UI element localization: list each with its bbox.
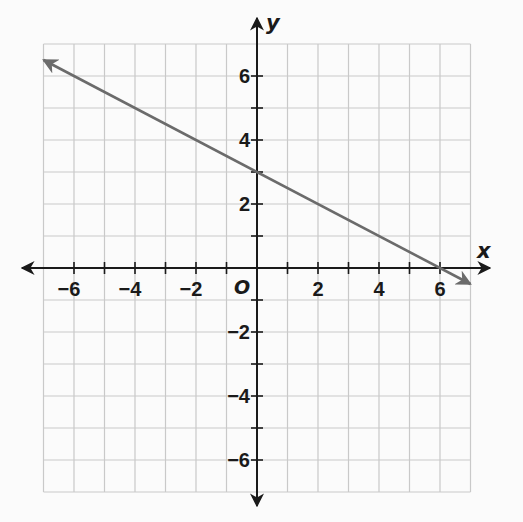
- y-tick-label: 4: [239, 129, 251, 151]
- x-tick-label: −6: [58, 278, 81, 300]
- x-tick-label: −2: [180, 278, 203, 300]
- y-tick-label: −6: [227, 449, 250, 471]
- x-tick-label: 2: [312, 278, 323, 300]
- origin-label: O: [234, 276, 250, 298]
- y-tick-label: 2: [239, 193, 250, 215]
- x-tick-label: 4: [373, 278, 385, 300]
- x-tick-label: −4: [119, 278, 143, 300]
- y-tick-label: 6: [239, 65, 250, 87]
- y-tick-label: −2: [227, 321, 250, 343]
- y-tick-label: −4: [227, 385, 251, 407]
- coordinate-plane: −6−4−2246642−2−4−6 x y O: [0, 0, 523, 522]
- x-axis-label: x: [476, 239, 492, 263]
- y-axis-label: y: [266, 11, 281, 35]
- x-tick-label: 6: [434, 278, 445, 300]
- axes: [22, 18, 490, 506]
